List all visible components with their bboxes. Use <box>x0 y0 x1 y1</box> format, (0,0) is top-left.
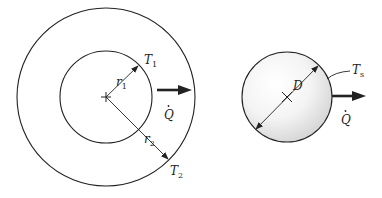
label-D: D <box>292 79 303 93</box>
svg-text:Q: Q <box>164 108 174 122</box>
heat-flow-arrow-icon <box>157 85 192 95</box>
ts-leader-line <box>327 71 350 79</box>
label-Ts: Ts <box>352 63 364 79</box>
label-Qdot-right: Q <box>341 110 351 127</box>
label-Qdot-left: Q <box>164 105 174 122</box>
label-r1: r1 <box>116 75 127 91</box>
label-r2: r2 <box>144 132 155 148</box>
sphere-diagram: D Ts Q <box>242 52 366 142</box>
svg-text:Q: Q <box>341 113 351 127</box>
sphere-heat-flow-arrow-icon <box>332 91 366 101</box>
r2-arrow <box>106 97 168 159</box>
label-T1: T1 <box>144 53 157 69</box>
label-T2: T2 <box>170 164 183 180</box>
shell-diagram: T1 r1 r2 T2 Q <box>17 8 195 186</box>
heat-conduction-diagram: T1 r1 r2 T2 Q D Ts <box>0 0 382 198</box>
